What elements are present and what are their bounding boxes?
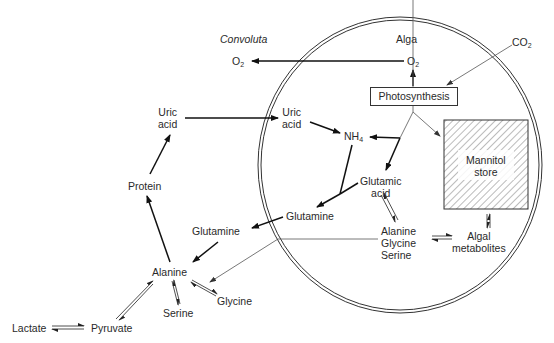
alanine-to-protein-arrow: [147, 196, 170, 262]
split-to-nh4-arrow: [370, 137, 400, 138]
label-serine: Serine: [163, 307, 193, 319]
algal-aa-to-alanine-arrow: [210, 239, 378, 282]
label-uric-acid-outside: Uricacid: [158, 106, 177, 130]
label-algal-metabolites: Algalmetabolites: [452, 230, 506, 254]
split-to-glutamic-arrow: [386, 138, 400, 170]
junction-to-glutamine-arrow: [317, 194, 340, 207]
label-uric-acid-inside: Uricacid: [282, 106, 301, 130]
label-algal-amino-acids: AlanineGlycineSerine: [381, 225, 416, 261]
uric-acid-to-nh4-arrow: [310, 122, 340, 133]
label-o2-inside: O2: [407, 55, 419, 71]
photosynthesis-to-mannitol-arrow: [413, 112, 440, 136]
nh4-to-junction: [340, 145, 352, 194]
label-glutamic-acid: Glutamicacid: [360, 175, 401, 199]
label-o2-outside: O2: [232, 55, 244, 71]
label-mannitol-store: Mannitolstore: [466, 154, 506, 178]
label-pyruvate: Pyruvate: [91, 322, 132, 334]
glutamine-to-alanine-arrow: [193, 242, 218, 262]
label-protein: Protein: [128, 180, 161, 192]
label-alga: Alga: [396, 33, 417, 45]
photosynthesis-to-split: [400, 112, 413, 138]
label-convoluta: Convoluta: [220, 33, 267, 45]
reversible-arrows: [52, 193, 490, 329]
label-glycine: Glycine: [217, 295, 252, 307]
label-co2: CO2: [512, 36, 532, 52]
label-glutamine-outside: Glutamine: [192, 225, 240, 237]
label-lactate: Lactate: [12, 322, 46, 334]
protein-to-uric-acid-arrow: [150, 135, 170, 174]
photosynthesis-box: Photosynthesis: [370, 87, 458, 106]
co2-arrow: [447, 45, 512, 85]
label-glutamine-inside: Glutamine: [286, 210, 334, 222]
label-alanine: Alanine: [152, 266, 187, 278]
label-nh4: NH4: [344, 130, 363, 146]
